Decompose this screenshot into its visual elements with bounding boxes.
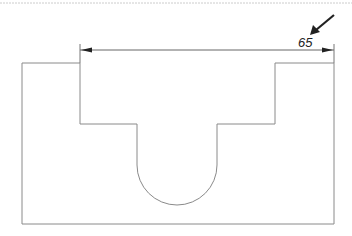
dimension-arrowhead-left [81,48,92,53]
dimension-label: 65 [298,35,312,50]
dimension-arrowhead-right [322,48,333,53]
pointer-arrow-shaft [316,15,334,30]
part-outline [22,63,334,224]
